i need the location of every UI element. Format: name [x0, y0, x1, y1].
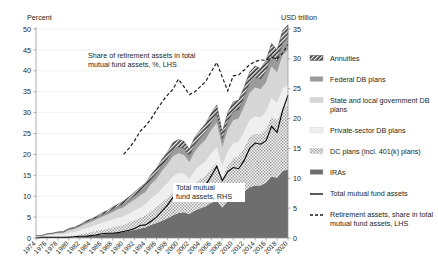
y2-tick-0: 0 — [293, 234, 297, 243]
legend-swatch-1 — [310, 77, 323, 82]
y-tick-25: 25 — [23, 129, 31, 138]
total-annotation: Total mutual fund assets, RHS — [173, 183, 245, 202]
legend-label-2-cont: plans — [330, 105, 348, 114]
legend-swatch-0 — [310, 56, 323, 61]
legend-label-3: Private-sector DB plans — [330, 126, 406, 135]
y2-axis-title: USD trillion — [281, 13, 317, 22]
y-tick-5: 5 — [27, 213, 31, 222]
y-tick-45: 45 — [23, 46, 31, 55]
legend-swatch-2 — [310, 98, 323, 103]
legend-label-2: State and local government DB — [330, 96, 430, 105]
y2-tick-5: 5 — [293, 204, 297, 213]
share-annotation-line1: Share of retirement assets in total — [88, 51, 196, 60]
legend-label-4: DC plans (incl. 401(k) plans) — [330, 147, 421, 156]
y2-tick-35: 35 — [293, 25, 301, 34]
legend-swatch-4 — [310, 149, 323, 154]
legend-label-7: Retirement assets, share in total — [330, 210, 433, 219]
y2-tick-10: 10 — [293, 174, 301, 183]
y-tick-30: 30 — [23, 108, 31, 117]
y-tick-10: 10 — [23, 192, 31, 201]
legend-swatch-3 — [310, 128, 323, 133]
y2-tick-20: 20 — [293, 114, 301, 123]
legend-swatch-5 — [310, 170, 323, 175]
y-tick-50: 50 — [23, 25, 31, 34]
legend-label-6: Total mutual fund assets — [330, 189, 408, 198]
legend-label-1: Federal DB plans — [330, 75, 386, 84]
legend-label-7-cont: mutual fund assets, LHS — [330, 219, 409, 228]
y-tick-40: 40 — [23, 66, 31, 75]
y-axis-title: Percent — [27, 13, 52, 22]
y-tick-35: 35 — [23, 87, 31, 96]
retirement-assets-chart: 05101520253035404550 05101520253035 1974… — [0, 0, 438, 274]
y2-tick-25: 25 — [293, 84, 301, 93]
share-annotation-line2: mutual fund assets, %, LHS — [88, 60, 177, 69]
y-tick-20: 20 — [23, 150, 31, 159]
y2-tick-15: 15 — [293, 144, 301, 153]
y-tick-15: 15 — [23, 171, 31, 180]
total-annotation-line1: Total mutual — [176, 183, 215, 192]
legend-label-0: Annuities — [330, 54, 360, 63]
y2-tick-30: 30 — [293, 54, 301, 63]
total-annotation-line2: fund assets, RHS — [176, 192, 232, 201]
legend-label-5: IRAs — [330, 168, 346, 177]
